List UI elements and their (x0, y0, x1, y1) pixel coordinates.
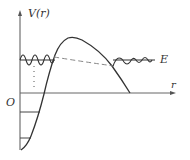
x-axis-arrow-icon (170, 91, 176, 95)
origin-label: O (6, 97, 15, 108)
outer-wavefunction (113, 58, 152, 67)
energy-label: E (160, 54, 168, 65)
potential-barrier-diagram (0, 0, 190, 160)
y-axis-label: V(r) (28, 8, 50, 19)
y-axis (18, 10, 22, 150)
y-axis-arrow-icon (18, 10, 22, 16)
well-level-lines (20, 112, 40, 138)
potential-curve (21, 37, 130, 150)
x-axis-label: r (171, 80, 176, 90)
